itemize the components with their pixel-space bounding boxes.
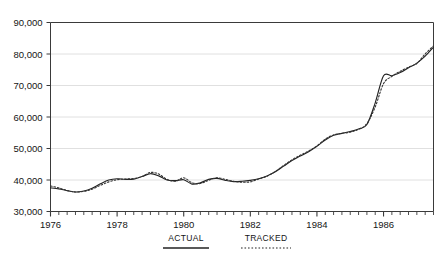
y-tick-label: 50,000 [13,143,42,154]
x-tick-label: 1980 [173,219,194,230]
y-tick-label: 40,000 [13,175,42,186]
x-tick-label: 1984 [306,219,327,230]
chart-container: 30,00040,00050,00060,00070,00080,00090,0… [0,0,448,266]
x-tick-label: 1982 [240,219,261,230]
x-tick-label: 1976 [40,219,61,230]
legend-label-actual: ACTUAL [168,233,203,243]
x-tick-label: 1986 [373,219,394,230]
y-tick-label: 70,000 [13,80,42,91]
y-tick-label: 90,000 [13,17,42,28]
y-tick-label: 80,000 [13,49,42,60]
line-chart: 30,00040,00050,00060,00070,00080,00090,0… [0,0,448,266]
x-tick-label: 1978 [107,219,128,230]
y-tick-label: 30,000 [13,206,42,217]
y-tick-label: 60,000 [13,112,42,123]
legend-label-tracked: TRACKED [245,233,288,243]
